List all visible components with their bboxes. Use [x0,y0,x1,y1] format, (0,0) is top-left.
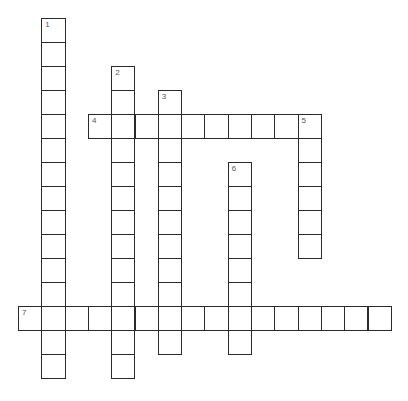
crossword-cell[interactable] [111,138,135,163]
crossword-cell[interactable] [41,330,65,355]
crossword-cell[interactable] [158,306,182,331]
crossword-cell[interactable] [41,354,65,379]
crossword-cell[interactable] [41,282,65,307]
crossword-cell[interactable] [158,282,182,307]
crossword-cell[interactable] [228,210,252,235]
crossword-cell[interactable] [111,210,135,235]
crossword-cell[interactable] [111,186,135,211]
crossword-cell[interactable] [111,258,135,283]
crossword-cell[interactable] [111,354,135,379]
crossword-cell[interactable] [41,114,65,139]
crossword-cell[interactable] [228,330,252,355]
crossword-cell[interactable] [41,186,65,211]
crossword-cell[interactable] [181,114,205,139]
crossword-cell[interactable]: 5 [298,114,322,139]
crossword-cell[interactable] [321,306,345,331]
crossword-cell[interactable] [228,258,252,283]
crossword-cell[interactable]: 1 [41,18,65,43]
crossword-cell[interactable] [228,234,252,259]
crossword-cell[interactable] [111,114,135,139]
crossword-cell[interactable] [251,114,275,139]
crossword-cell[interactable] [181,306,205,331]
crossword-cell[interactable] [111,90,135,115]
crossword-cell[interactable] [111,282,135,307]
crossword-cell[interactable] [228,114,252,139]
crossword-cell[interactable] [111,234,135,259]
crossword-cell[interactable] [228,186,252,211]
crossword-cell[interactable]: 4 [88,114,112,139]
crossword-cell[interactable] [111,306,135,331]
crossword-cell[interactable]: 7 [18,306,42,331]
crossword-cell[interactable] [41,90,65,115]
crossword-cell[interactable] [41,234,65,259]
crossword-cell[interactable] [41,258,65,283]
crossword-cell[interactable] [111,330,135,355]
crossword-cell[interactable] [65,306,89,331]
crossword-cell[interactable] [41,42,65,67]
crossword-cell[interactable]: 2 [111,66,135,91]
crossword-cell[interactable] [158,186,182,211]
crossword-cell[interactable] [135,306,159,331]
crossword-cell[interactable] [298,162,322,187]
clue-number: 2 [115,69,119,77]
crossword-cell[interactable] [228,306,252,331]
crossword-cell[interactable] [274,306,298,331]
crossword-cell[interactable] [158,114,182,139]
crossword-cell[interactable] [274,114,298,139]
clue-number: 1 [45,21,49,29]
crossword-cell[interactable] [368,306,392,331]
crossword-cell[interactable] [158,234,182,259]
clue-number: 3 [162,93,166,101]
crossword-cell[interactable] [228,282,252,307]
crossword-cell[interactable] [204,306,228,331]
crossword-cell[interactable] [41,210,65,235]
crossword-cell[interactable] [111,162,135,187]
clue-number: 7 [22,309,26,317]
clue-number: 4 [92,117,96,125]
crossword-cell[interactable] [41,306,65,331]
crossword-cell[interactable] [41,138,65,163]
crossword-grid: 1234567 [0,0,408,401]
crossword-cell[interactable] [298,186,322,211]
crossword-cell[interactable] [344,306,368,331]
crossword-cell[interactable] [158,138,182,163]
crossword-cell[interactable] [251,306,275,331]
crossword-cell[interactable] [298,306,322,331]
crossword-cell[interactable] [41,162,65,187]
crossword-cell[interactable] [204,114,228,139]
crossword-cell[interactable] [298,234,322,259]
crossword-cell[interactable] [298,210,322,235]
clue-number: 6 [232,165,236,173]
crossword-cell[interactable] [158,162,182,187]
crossword-cell[interactable]: 6 [228,162,252,187]
crossword-cell[interactable] [88,306,112,331]
clue-number: 5 [302,117,306,125]
crossword-cell[interactable] [41,66,65,91]
crossword-cell[interactable] [158,258,182,283]
crossword-cell[interactable]: 3 [158,90,182,115]
crossword-cell[interactable] [158,330,182,355]
crossword-cell[interactable] [135,114,159,139]
crossword-cell[interactable] [158,210,182,235]
crossword-cell[interactable] [298,138,322,163]
